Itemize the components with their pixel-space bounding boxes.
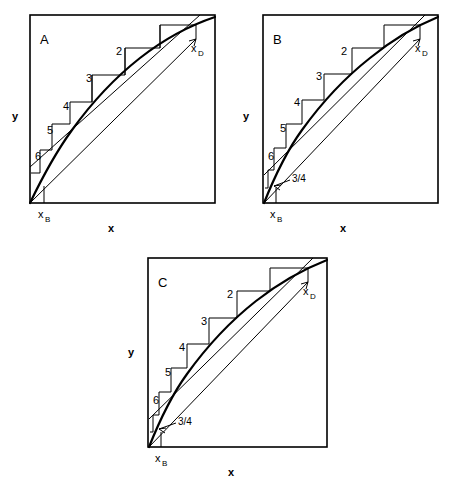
panel-b: B 3/4 2 3 4 5 6 x D x	[228, 0, 458, 245]
panel-a-x-axis-label: x	[108, 222, 115, 234]
panel-b-xb-sublabel: B	[277, 215, 282, 224]
panel-a-xd-label: x	[191, 42, 197, 54]
panel-b-xd-sublabel: D	[422, 49, 428, 58]
panel-c-xb-label: x	[155, 452, 161, 464]
panel-c-fraction-label: 3/4	[178, 416, 192, 427]
panel-a-stage-label-2: 2	[116, 45, 122, 57]
panel-a-stage-label-3: 3	[86, 72, 92, 84]
panel-c-xd-label: x	[303, 285, 309, 297]
panel-a-xd-sublabel: D	[198, 49, 204, 58]
panel-c-stage-label-2: 2	[227, 288, 233, 300]
panel-b-xd-label: x	[415, 42, 421, 54]
panel-a-letter: A	[40, 32, 49, 47]
panel-b-fraction-label: 3/4	[292, 173, 306, 184]
panel-a-operating-line-stripping	[30, 39, 196, 203]
panel-b-stage-label-6: 6	[268, 150, 274, 162]
panel-a-stage-label-6: 6	[35, 150, 41, 162]
panel-a-stage-label-4: 4	[63, 100, 69, 112]
panel-c-letter: C	[158, 275, 167, 290]
panel-c-operating-line-rectifying	[149, 258, 313, 419]
panel-b-operating-line-stripping	[264, 39, 420, 203]
panel-a-step-risers	[92, 25, 160, 102]
panel-a: A 2 3 4 5 6 x D x	[0, 0, 230, 245]
panel-b-x-axis-label: x	[340, 222, 347, 234]
panel-b-stage-label-5: 5	[280, 122, 286, 134]
panel-b-stage-label-4: 4	[294, 96, 300, 108]
panel-a-frame	[30, 15, 215, 203]
panel-b-frame	[263, 15, 438, 203]
panel-c-y-axis-label: y	[128, 346, 135, 358]
panel-b-stage-label-3: 3	[316, 70, 322, 82]
panel-a-y-axis-label: y	[12, 110, 19, 122]
panel-c-stage-label-6: 6	[153, 394, 159, 406]
panel-a-xb-sublabel: B	[45, 215, 50, 224]
panel-b-operating-line-rectifying	[264, 15, 425, 175]
panel-c-x-axis-label: x	[228, 466, 235, 478]
panel-c-stage-label-4: 4	[179, 341, 185, 353]
panel-c: C 3/4 2 3 4 5 6 x D x	[110, 243, 350, 485]
panel-a-operating-line-rectifying	[30, 15, 200, 167]
panel-b-stage-label-2: 2	[341, 45, 347, 57]
panel-c-stage-label-3: 3	[201, 315, 207, 327]
panel-c-operating-line-stripping	[149, 282, 308, 447]
panel-c-frame	[148, 258, 327, 447]
panel-a-stage-staircase	[31, 25, 196, 173]
panel-a-stage-label-5: 5	[47, 124, 53, 136]
panel-b-y-axis-label: y	[243, 110, 250, 122]
panel-a-xb-label: x	[38, 208, 44, 220]
panel-b-letter: B	[273, 32, 282, 47]
panel-c-xb-sublabel: B	[162, 459, 167, 468]
panel-c-stage-label-5: 5	[165, 366, 171, 378]
panel-c-xd-sublabel: D	[310, 292, 316, 301]
figure-canvas: A 2 3 4 5 6 x D x	[0, 0, 458, 485]
panel-b-xb-label: x	[270, 208, 276, 220]
